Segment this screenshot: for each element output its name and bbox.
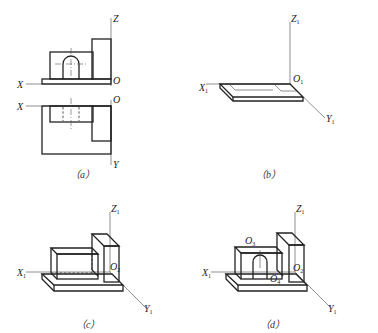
label-y: Y — [113, 159, 120, 170]
drawing-canvas: Z O X O X Y （a） Z1 X1 O1 Y1 （b） — [0, 0, 378, 333]
base-plate-front — [42, 79, 111, 84]
panel-a: Z O X O X Y （a） — [16, 13, 120, 180]
left-block-top — [50, 106, 93, 122]
base-plate-iso — [220, 84, 303, 101]
label-o-top: O — [113, 75, 120, 86]
front-view — [42, 39, 111, 84]
caption-b: （b） — [256, 169, 281, 180]
top-view — [42, 98, 111, 154]
y1-axis — [295, 272, 330, 307]
panel-b: Z1 X1 O1 Y1 （b） — [198, 13, 335, 180]
label-y1: Y1 — [328, 303, 337, 315]
label-y1: Y1 — [144, 303, 153, 315]
label-z: Z — [113, 13, 119, 24]
label-z1: Z1 — [111, 203, 120, 215]
label-y1: Y1 — [326, 113, 335, 125]
label-o4: O4 — [270, 273, 280, 285]
label-x-bottom: X — [16, 101, 24, 112]
label-o-bottom: O — [113, 94, 120, 105]
panel-d: Z1 X1 O3 O4 O2 Y1 （d） — [201, 203, 337, 330]
right-upright-front — [92, 39, 111, 79]
caption-c: （c） — [76, 319, 100, 330]
label-o1: O1 — [293, 73, 303, 85]
caption-d: （d） — [260, 319, 285, 330]
right-upright-top — [92, 106, 111, 141]
label-o3: O3 — [245, 235, 255, 247]
panel-c: Z1 X1 O2 Y1 （c） — [16, 203, 153, 330]
label-z1: Z1 — [296, 203, 305, 215]
label-x-top: X — [16, 79, 24, 90]
label-x1: X1 — [201, 267, 211, 279]
label-o2: O2 — [293, 262, 303, 274]
label-z1: Z1 — [291, 13, 300, 25]
base-plate-top — [42, 106, 111, 154]
label-x1: X1 — [16, 267, 26, 279]
caption-a: （a） — [70, 169, 95, 180]
